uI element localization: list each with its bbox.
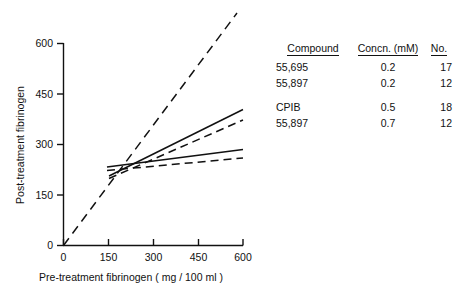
x-tick-label-300: 300	[145, 251, 163, 263]
y-tick-label-150: 150	[35, 189, 53, 201]
y-tick-label-0: 0	[47, 239, 53, 251]
legend-header-compound: Compound	[268, 42, 350, 59]
legend-header-no: No.	[426, 42, 452, 59]
legend-header-row: Compound Concn. (mM) No.	[268, 42, 452, 59]
legend-header-concn-text: Concn. (mM)	[358, 42, 419, 56]
legend-cell-no: 18	[426, 91, 452, 115]
legend-header-concn: Concn. (mM)	[350, 42, 426, 59]
legend-cell-no: 12	[426, 75, 452, 91]
x-tick-label-450: 450	[190, 251, 208, 263]
legend-cell-concn: 0.5	[350, 91, 426, 115]
series-55695-0-2mm	[109, 110, 243, 177]
x-axis-tick-labels: 0 150 300 450 600	[61, 251, 252, 263]
legend-cell-compound: 55,695	[268, 59, 350, 75]
legend-table: Compound Concn. (mM) No. 55,695 0.2 17 5…	[268, 42, 452, 131]
x-axis-ticks	[64, 239, 244, 246]
legend-cell-no: 17	[426, 59, 452, 75]
series-55897-0-2mm	[109, 120, 243, 179]
legend-row: 55,897 0.2 12	[268, 75, 452, 91]
x-axis-title: Pre-treatment fibrinogen ( mg / 100 ml )	[39, 271, 223, 283]
y-axis-ticks	[57, 44, 64, 246]
y-tick-label-600: 600	[35, 37, 53, 49]
y-tick-label-300: 300	[35, 138, 53, 150]
legend-header-no-text: No.	[431, 42, 447, 56]
legend-row: CPIB 0.5 18	[268, 91, 452, 115]
y-axis-tick-labels: 600 450 300 150 0	[35, 37, 53, 251]
legend-cell-compound: 55,897	[268, 115, 350, 131]
y-axis-title: Post-treatment fibrinogen	[14, 86, 26, 204]
legend-row: 55,897 0.7 12	[268, 115, 452, 131]
legend-cell-concn: 0.2	[350, 75, 426, 91]
legend-cell-no: 12	[426, 115, 452, 131]
axis-lines	[63, 43, 243, 246]
y-tick-label-450: 450	[35, 88, 53, 100]
x-tick-label-150: 150	[100, 251, 118, 263]
legend-cell-compound: CPIB	[268, 91, 350, 115]
legend-header-compound-text: Compound	[287, 42, 338, 56]
legend-cell-compound: 55,897	[268, 75, 350, 91]
figure-container: 600 450 300 150 0 0 150 300 450 600 Pre-…	[0, 0, 466, 301]
x-tick-label-0: 0	[61, 251, 67, 263]
legend-cell-concn: 0.7	[350, 115, 426, 131]
x-tick-label-600: 600	[234, 251, 252, 263]
legend-cell-concn: 0.2	[350, 59, 426, 75]
legend-row: 55,695 0.2 17	[268, 59, 452, 75]
series-line-of-identity	[64, 13, 238, 246]
